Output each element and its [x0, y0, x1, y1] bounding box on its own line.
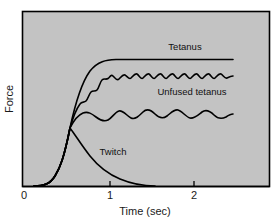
y-axis-title: Force [3, 85, 15, 113]
label-twitch: Twitch [100, 146, 127, 157]
force-time-chart: 0 1 2 Time (sec) Force Tetanus Unfused t… [0, 0, 279, 222]
plot-area-frame [23, 12, 270, 187]
x-tick-label-2: 2 [191, 189, 197, 201]
x-tick-label-0: 0 [21, 189, 27, 201]
x-tick-label-1: 1 [107, 189, 113, 201]
x-axis-title: Time (sec) [119, 205, 171, 217]
label-tetanus: Tetanus [168, 41, 202, 52]
label-unfused-tetanus: Unfused tetanus [157, 86, 226, 97]
